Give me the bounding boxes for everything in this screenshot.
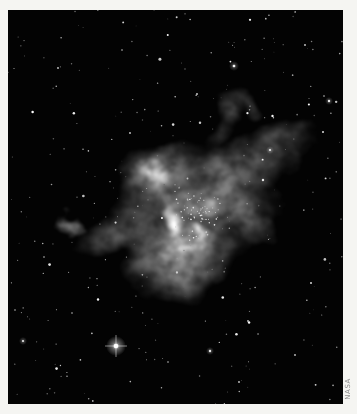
star <box>158 110 159 111</box>
star <box>329 177 331 179</box>
star <box>181 63 182 64</box>
star <box>294 11 296 13</box>
star <box>221 296 224 299</box>
star <box>146 188 147 189</box>
notable-star <box>14 309 16 311</box>
star <box>131 41 132 42</box>
cluster-star <box>193 237 195 239</box>
star <box>251 61 252 62</box>
star <box>330 233 331 234</box>
star <box>212 129 213 130</box>
star <box>60 365 61 366</box>
star <box>307 180 308 181</box>
star <box>310 86 311 87</box>
star <box>53 138 55 140</box>
cluster-star <box>208 211 209 212</box>
star <box>312 345 313 346</box>
star <box>125 176 126 177</box>
star <box>22 307 23 308</box>
star <box>234 47 235 48</box>
star <box>263 37 265 39</box>
star <box>61 376 62 377</box>
star <box>225 268 226 269</box>
star <box>303 209 305 211</box>
cluster-star <box>201 215 202 216</box>
star <box>84 393 85 394</box>
notable-star <box>304 44 306 46</box>
cluster-star <box>192 230 193 231</box>
star <box>267 235 268 236</box>
star <box>105 216 106 217</box>
cluster-star <box>193 216 194 217</box>
notable-star <box>323 95 325 97</box>
star <box>99 223 100 224</box>
star <box>136 25 137 26</box>
cluster-star <box>194 218 195 219</box>
star <box>174 96 176 98</box>
cluster-star <box>184 209 185 210</box>
star <box>86 171 87 172</box>
cluster-star <box>189 235 190 236</box>
star <box>239 294 240 295</box>
star <box>275 363 276 364</box>
cluster-star <box>180 211 182 213</box>
star <box>34 241 35 242</box>
cluster-star <box>202 207 203 208</box>
star <box>29 319 30 320</box>
star <box>73 112 75 114</box>
cluster-star <box>215 212 216 213</box>
star <box>119 311 120 312</box>
star <box>174 184 176 186</box>
star <box>190 121 191 122</box>
cluster-star <box>198 238 199 239</box>
star <box>176 271 178 273</box>
star <box>306 300 308 302</box>
star <box>48 263 51 266</box>
notable-star <box>43 256 45 258</box>
star <box>92 400 94 402</box>
star <box>292 16 293 17</box>
cluster-star <box>197 211 198 212</box>
star <box>35 360 36 361</box>
star <box>145 325 146 326</box>
star <box>95 176 96 177</box>
star <box>285 149 286 150</box>
star <box>135 295 136 296</box>
star <box>17 394 18 395</box>
star <box>212 269 213 270</box>
star <box>187 178 189 180</box>
star <box>142 285 143 286</box>
star <box>268 15 269 16</box>
nebula-blob <box>204 234 238 260</box>
star <box>42 243 44 245</box>
star <box>246 203 248 205</box>
cluster-star <box>217 198 218 199</box>
star <box>232 45 233 46</box>
star <box>210 52 212 54</box>
star <box>76 196 77 197</box>
star <box>111 139 112 140</box>
star <box>249 105 250 106</box>
star <box>158 58 161 61</box>
cluster-star <box>216 218 217 219</box>
star <box>309 98 310 99</box>
cluster-star <box>184 206 185 207</box>
cluster-star <box>191 210 192 211</box>
star <box>183 143 184 144</box>
star <box>264 58 265 59</box>
star <box>43 348 44 349</box>
star <box>89 277 90 278</box>
star <box>189 19 191 21</box>
cluster-star <box>219 203 220 204</box>
star <box>274 190 275 191</box>
star <box>160 240 161 241</box>
star <box>311 41 313 43</box>
cluster-star <box>207 208 208 209</box>
star <box>56 309 57 310</box>
star <box>161 217 163 219</box>
cluster-star <box>197 202 198 203</box>
star <box>179 173 180 174</box>
cluster-star <box>189 199 190 200</box>
star <box>325 177 327 179</box>
cluster-star <box>193 195 195 197</box>
